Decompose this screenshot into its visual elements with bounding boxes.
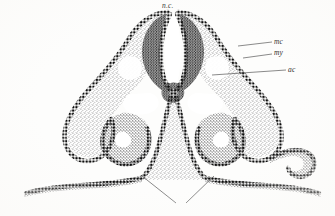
label-nc: n.c.: [162, 2, 174, 10]
epithelial-border-dots: [0, 0, 335, 216]
illustration-canvas: [0, 0, 335, 216]
label-my: my: [274, 49, 283, 57]
label-ac: ac: [288, 66, 295, 74]
figure-plate: n.c. mc my ac: [0, 0, 335, 216]
label-mc: mc: [274, 38, 283, 46]
